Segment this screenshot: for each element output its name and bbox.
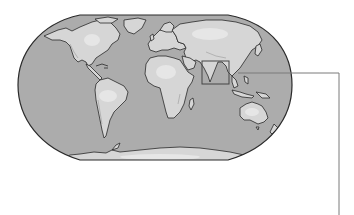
- world-map-figure: [0, 0, 354, 215]
- world-map-svg: [0, 0, 354, 215]
